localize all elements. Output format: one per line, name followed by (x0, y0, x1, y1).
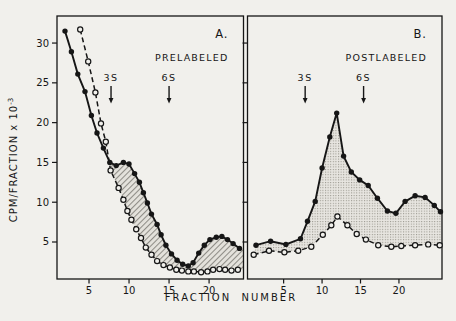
data-point-open (191, 269, 196, 274)
data-point-filled (253, 243, 258, 248)
data-point-filled (62, 28, 67, 33)
sed-marker-arrowhead-6S (361, 98, 366, 104)
sed-marker-arrowhead-3S (303, 98, 308, 104)
data-point-open (161, 263, 166, 268)
data-point-open (309, 244, 314, 249)
panel-B: 51015203S6SB.POSTLABELED (243, 16, 444, 296)
data-point-open (138, 235, 143, 240)
data-point-filled (375, 196, 380, 201)
data-point-open (86, 59, 91, 64)
data-point-open (116, 185, 121, 190)
data-point-filled (349, 169, 354, 174)
scanned-figure-page: { "figure": { "background": "#f1f0ec", "… (0, 0, 456, 321)
data-point-filled (82, 89, 87, 94)
y-axis-title: CPM/FRACTION x 10-3 (7, 50, 21, 270)
data-point-filled (432, 203, 437, 208)
y-tick-label: 25 (36, 77, 49, 88)
sed-marker-label-6S: 6S (162, 72, 177, 83)
data-point-open (320, 232, 325, 237)
data-point-filled (101, 145, 106, 150)
data-point-filled (237, 246, 242, 251)
data-point-open (354, 231, 359, 236)
data-point-open (155, 259, 160, 264)
y-tick-label: 20 (36, 117, 49, 128)
data-point-open (363, 237, 368, 242)
data-point-filled (114, 163, 119, 168)
data-point-filled (341, 153, 346, 158)
data-point-filled (305, 219, 310, 224)
data-point-open (235, 267, 240, 272)
figure-root: 5101520253051015203S6SA.PRELABELED510152… (0, 0, 456, 321)
data-point-open (217, 267, 222, 272)
data-point-open (121, 197, 126, 202)
data-point-filled (126, 161, 131, 166)
data-point-filled (202, 243, 207, 248)
panel-label-B: B. (413, 27, 427, 41)
sed-marker-arrowhead-3S (109, 98, 114, 104)
y-tick-label: 30 (36, 38, 49, 49)
data-point-filled (190, 260, 195, 265)
data-point-filled (393, 211, 398, 216)
data-point-filled (145, 200, 150, 205)
data-point-open (329, 223, 334, 228)
y-tick-label: 10 (36, 197, 49, 208)
data-point-open (125, 208, 130, 213)
data-point-open (98, 121, 103, 126)
data-point-filled (69, 49, 74, 54)
panel-label-A: A. (215, 27, 228, 41)
data-point-filled (422, 195, 427, 200)
y-tick-label: 15 (36, 157, 49, 168)
data-point-open (426, 242, 431, 247)
data-point-filled (402, 199, 407, 204)
data-point-filled (89, 113, 94, 118)
data-point-filled (313, 199, 318, 204)
data-point-filled (137, 180, 142, 185)
data-point-open (103, 139, 108, 144)
data-point-open (376, 243, 381, 248)
chart-svg: 5101520253051015203S6SA.PRELABELED510152… (0, 0, 456, 321)
sed-marker-label-3S: 3S (103, 72, 118, 83)
condition-label-B: POSTLABELED (346, 52, 427, 63)
data-point-open (179, 268, 184, 273)
data-point-filled (158, 232, 163, 237)
data-point-open (413, 243, 418, 248)
data-point-open (335, 214, 340, 219)
data-point-filled (132, 171, 137, 176)
data-point-open (399, 243, 404, 248)
y-tick-label: 5 (43, 236, 49, 247)
data-point-open (205, 269, 210, 274)
y-axis-title-text: CPM/FRACTION x 10 (8, 105, 19, 222)
data-point-open (199, 270, 204, 275)
data-point-open (93, 90, 98, 95)
data-point-filled (196, 250, 201, 255)
data-point-open (389, 244, 394, 249)
data-point-filled (214, 235, 219, 240)
data-point-filled (207, 237, 212, 242)
data-point-filled (366, 183, 371, 188)
data-point-open (129, 217, 134, 222)
data-point-filled (154, 222, 159, 227)
data-point-open (143, 245, 148, 250)
data-point-open (174, 267, 179, 272)
data-point-open (437, 243, 442, 248)
data-point-filled (75, 71, 80, 76)
data-point-filled (412, 193, 417, 198)
data-point-open (78, 27, 83, 32)
data-point-filled (230, 241, 235, 246)
data-point-filled (225, 237, 230, 242)
data-point-filled (180, 262, 185, 267)
data-point-filled (174, 258, 179, 263)
data-point-open (345, 223, 350, 228)
data-point-open (211, 267, 216, 272)
data-point-filled (219, 234, 224, 239)
data-point-filled (186, 263, 191, 268)
data-point-open (229, 268, 234, 273)
data-point-open (186, 269, 191, 274)
data-point-filled (298, 236, 303, 241)
data-point-filled (163, 243, 168, 248)
data-point-open (108, 168, 113, 173)
data-point-open (167, 265, 172, 270)
y-axis-title-exponent: -3 (7, 98, 15, 105)
data-point-filled (141, 190, 146, 195)
data-point-filled (94, 130, 99, 135)
